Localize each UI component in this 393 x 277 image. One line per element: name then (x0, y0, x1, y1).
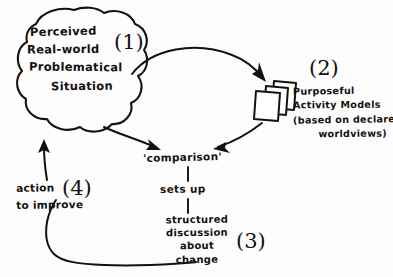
step-number-1: (1) (114, 30, 144, 54)
arrow-cloud-to-comparison (104, 127, 157, 148)
ssm-diagram-canvas: Perceived Real-world Problematical Situa… (0, 0, 393, 277)
models-line-1: Purposeful (293, 85, 393, 97)
cloud-line-4: Situation (26, 80, 138, 93)
sets-up-label: sets up (160, 184, 206, 195)
card-front-shape (254, 91, 280, 121)
cloud-line-3: Problematical (26, 62, 138, 75)
discussion-label-block: structured discussion about change (155, 215, 239, 268)
action-line-2: to improve (16, 199, 83, 211)
discussion-line-2: discussion (155, 228, 239, 239)
step-number-3: (3) (236, 229, 266, 253)
step-number-4: (4) (62, 176, 92, 200)
arrowhead-cloud-to-models (252, 62, 266, 82)
step-number-2: (2) (309, 56, 339, 80)
action-line-1: action (16, 182, 55, 193)
discussion-line-1: structured (155, 214, 239, 225)
models-line-2: Activity Models (293, 100, 393, 111)
models-line-3: (based on declared (293, 114, 393, 125)
discussion-line-4: change (155, 254, 239, 266)
models-label-block: Purposeful Activity Models (based on dec… (293, 86, 393, 143)
discussion-line-3: about (155, 241, 239, 252)
arrow-cloud-to-models (132, 48, 264, 79)
comparison-label: 'comparison' (143, 151, 222, 164)
models-line-4: worldviews) (293, 128, 393, 139)
